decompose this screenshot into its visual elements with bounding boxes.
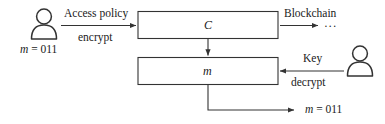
- encrypt-edge-label-above: Access policy: [64, 8, 128, 20]
- message-box-label: m: [203, 65, 212, 77]
- encrypt-edge-label-below: encrypt: [78, 32, 112, 44]
- decrypt-edge-label-above: Key: [303, 53, 322, 65]
- blockchain-ellipsis: ···: [324, 21, 337, 33]
- data-owner-message-rest: = 011: [28, 43, 57, 55]
- person-icon-data-user: [348, 46, 373, 76]
- output-message-rest: = 011: [313, 103, 342, 115]
- blockchain-edge-label: Blockchain: [284, 8, 336, 20]
- diagram-canvas: Access policy encrypt m = 011 C m Blockc…: [0, 0, 385, 124]
- decrypt-edge-label-below: decrypt: [291, 77, 325, 89]
- ciphertext-box-label: C: [204, 19, 212, 31]
- person-icon-data-owner: [32, 9, 57, 39]
- output-message-label: m = 011: [305, 104, 342, 116]
- data-owner-message-label: m = 011: [20, 44, 57, 56]
- output-edge-line: [208, 85, 294, 110]
